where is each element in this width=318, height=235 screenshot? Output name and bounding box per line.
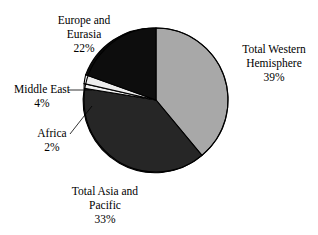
slice-label-europe-and-eurasia-line2: Eurasia bbox=[30, 27, 138, 41]
slice-label-africa: Africa 2% bbox=[22, 126, 82, 154]
slice-label-africa-value: 2% bbox=[22, 140, 82, 154]
slice-label-africa-line1: Africa bbox=[22, 126, 82, 140]
slice-label-total-western-hemisphere: Total Western Hemisphere 39% bbox=[232, 42, 316, 84]
slice-label-europe-and-eurasia-value: 22% bbox=[30, 41, 138, 55]
slice-label-total-western-hemisphere-line2: Hemisphere bbox=[232, 56, 316, 70]
slice-label-total-asia-and-pacific-value: 33% bbox=[46, 212, 164, 226]
slice-label-middle-east: Middle East 4% bbox=[4, 82, 80, 110]
pie-chart-figure: Europe and Eurasia 22% Total Western Hem… bbox=[0, 0, 318, 235]
slice-label-total-western-hemisphere-value: 39% bbox=[232, 70, 316, 84]
slice-label-middle-east-value: 4% bbox=[4, 96, 80, 110]
slice-label-europe-and-eurasia-line1: Europe and bbox=[30, 13, 138, 27]
slice-label-total-asia-and-pacific: Total Asia and Pacific 33% bbox=[46, 184, 164, 226]
slice-label-total-western-hemisphere-line1: Total Western bbox=[232, 42, 316, 56]
slice-label-middle-east-line1: Middle East bbox=[4, 82, 80, 96]
slice-label-total-asia-and-pacific-line2: Pacific bbox=[46, 198, 164, 212]
slice-label-total-asia-and-pacific-line1: Total Asia and bbox=[46, 184, 164, 198]
slice-label-europe-and-eurasia: Europe and Eurasia 22% bbox=[30, 13, 138, 55]
